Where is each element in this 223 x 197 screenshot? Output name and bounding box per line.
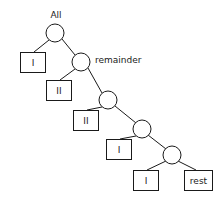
leaf-node-4: I [107, 140, 132, 160]
tree-diagram: I II II I I rest [0, 0, 223, 197]
root-node-label: All [50, 10, 61, 20]
tree-node-2 [72, 53, 90, 71]
edge-node-4-to-leaf-4 [120, 136, 136, 139]
edge-node-2-to-node-3 [88, 68, 102, 93]
edge-node-3-to-node-4 [115, 106, 136, 123]
leaf-label-1: I [32, 58, 35, 68]
edge-root-to-node-2 [62, 39, 75, 55]
tree-node-3 [99, 91, 117, 109]
leaf-node-1: I [21, 53, 46, 73]
remainder-node-label: remainder [95, 55, 142, 65]
node-label-group: All remainder [50, 10, 141, 65]
leaf-label-2: II [56, 86, 61, 96]
leaf-group: I II II I I rest [21, 53, 213, 191]
leaf-label-5: I [145, 176, 148, 186]
edge-node-4-to-node-5 [148, 135, 166, 149]
edge-node-5-to-leaf-rest [178, 161, 196, 170]
leaf-label-rest: rest [190, 176, 208, 186]
tree-diagram-canvas: I II II I I rest [0, 0, 223, 197]
edge-root-to-leaf-1 [34, 40, 49, 52]
leaf-node-2: II [47, 81, 72, 101]
edge-node-3-to-leaf-3 [87, 107, 102, 110]
edge-node-2-to-leaf-2 [60, 69, 75, 80]
leaf-label-3: II [83, 116, 88, 126]
tree-node-root [46, 24, 64, 42]
leaf-label-4: I [118, 145, 121, 155]
leaf-node-3: II [74, 111, 99, 131]
tree-node-5 [163, 146, 181, 164]
tree-node-4 [133, 120, 151, 138]
edge-node-5-to-leaf-5 [147, 161, 166, 170]
leaf-node-5: I [134, 171, 159, 191]
leaf-node-rest: rest [185, 171, 213, 191]
